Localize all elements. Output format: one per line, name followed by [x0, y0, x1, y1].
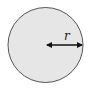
circle-figure: r: [0, 0, 91, 90]
circle-radius-diagram: r: [0, 0, 91, 90]
